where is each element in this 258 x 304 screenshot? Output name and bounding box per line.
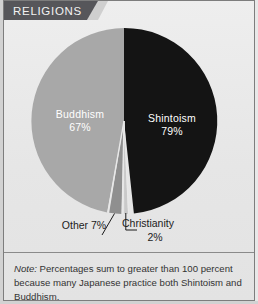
pie-label-other-name: Other	[62, 219, 88, 231]
pie-label-buddhism: Buddhism 67%	[42, 108, 118, 134]
chart-note-lead: Note:	[14, 263, 37, 274]
note-divider	[4, 252, 254, 253]
pie-label-christianity: Christianity 2%	[122, 216, 212, 244]
chart-note-text: Percentages sum to greater than 100 perc…	[14, 263, 242, 302]
pie-label-shintoism-name: Shintoism	[148, 112, 196, 124]
page-title: RELIGIONS	[4, 1, 98, 20]
pie-label-buddhism-name: Buddhism	[56, 108, 104, 120]
religions-pie-figure: RELIGIONS	[0, 0, 258, 304]
pie-label-shintoism-value: 79%	[134, 125, 210, 138]
pie-label-other-value: 7%	[91, 219, 106, 231]
chart-area: Shintoism 79% Buddhism 67% Other 7% Chri…	[4, 20, 254, 252]
pie-label-other: Other 7%	[54, 218, 114, 232]
pie-label-shintoism: Shintoism 79%	[134, 112, 210, 138]
pie-label-christianity-value: 2%	[122, 230, 188, 244]
pie-label-christianity-name: Christianity	[122, 217, 174, 229]
chart-note: Note: Percentages sum to greater than 10…	[14, 262, 246, 304]
pie-label-buddhism-value: 67%	[42, 121, 118, 134]
